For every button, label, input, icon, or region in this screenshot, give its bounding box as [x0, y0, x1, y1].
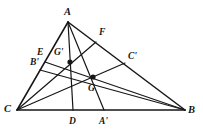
point-label-b-prime: B' [30, 58, 39, 68]
geometry-canvas [0, 0, 203, 135]
geometry-figure: A B C D A' E B' F C' G' G [0, 0, 203, 135]
point-label-g: G [88, 84, 95, 94]
side-AC [17, 22, 68, 110]
intersection-dot-Gprime [67, 59, 72, 64]
point-label-c-prime: C' [128, 52, 137, 62]
intersection-dot-G [90, 74, 95, 79]
point-label-a-prime: A' [99, 117, 108, 127]
point-label-f: F [99, 28, 105, 38]
cevian-B-E [45, 62, 185, 110]
point-label-d: D [69, 117, 76, 127]
vertex-label-a: A [64, 7, 71, 18]
point-label-g-prime: G' [54, 48, 64, 58]
vertex-label-b: B [188, 105, 195, 116]
vertex-label-c: C [4, 104, 11, 115]
